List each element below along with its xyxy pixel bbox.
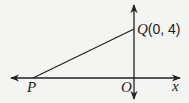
segment-pq bbox=[33, 29, 134, 78]
coordinate-diagram: Q(0, 4) P O x bbox=[0, 0, 189, 103]
x-axis-label: x bbox=[171, 78, 179, 94]
point-p-label: P bbox=[26, 79, 36, 95]
point-q-label: Q(0, 4) bbox=[137, 21, 181, 37]
origin-label: O bbox=[121, 79, 132, 95]
